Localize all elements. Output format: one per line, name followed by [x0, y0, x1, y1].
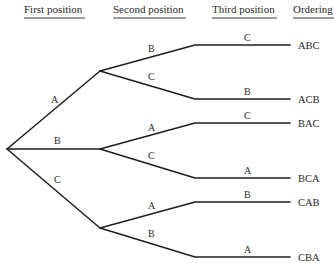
branch-label: C [244, 110, 251, 121]
edge-second-third [100, 71, 290, 99]
header-first: First position [24, 3, 83, 15]
ordering-labels: ABCACBBACBCACABCBA [298, 40, 320, 263]
branch-label: B [148, 228, 155, 239]
ordering-BCA: BCA [298, 173, 320, 184]
header-ordering: Ordering [293, 3, 333, 15]
branch-label: B [54, 135, 61, 146]
branch-label: A [148, 122, 156, 133]
branch-label: B [148, 43, 155, 54]
ordering-ABC: ABC [298, 40, 320, 51]
branch-label: A [244, 244, 252, 255]
ordering-BAC: BAC [298, 118, 320, 129]
edge-second-third [100, 45, 290, 71]
branch-label: B [244, 189, 251, 200]
ordering-ACB: ACB [298, 94, 320, 105]
edge-second-third [100, 228, 290, 257]
edge-first-C [7, 149, 100, 228]
column-headers: First positionSecond positionThird posit… [24, 3, 334, 18]
edge-second-third [100, 149, 290, 178]
branch-labels: ABCBCCBACCAABBA [51, 32, 252, 255]
branch-label: A [51, 94, 59, 105]
branch-label: B [244, 86, 251, 97]
edge-second-third [100, 123, 290, 149]
ordering-CAB: CAB [298, 197, 320, 208]
header-third: Third position [212, 3, 275, 15]
permutation-tree: First positionSecond positionThird posit… [0, 0, 334, 263]
tree-diagram: First positionSecond positionThird posit… [0, 0, 334, 263]
edge-second-third [100, 202, 290, 228]
branch-label: A [148, 200, 156, 211]
ordering-CBA: CBA [298, 252, 320, 263]
header-second: Second position [113, 3, 184, 15]
branch-label: C [244, 32, 251, 43]
branch-label: A [244, 165, 252, 176]
branch-label: C [148, 150, 155, 161]
branch-label: C [148, 71, 155, 82]
branch-label: C [54, 174, 61, 185]
